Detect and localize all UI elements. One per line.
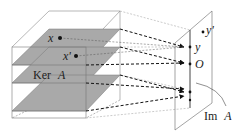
label-y-prime: y' [205, 23, 214, 37]
label-image: Im A [204, 106, 232, 123]
label-origin: O [195, 57, 204, 71]
label-kernel: Ker A [33, 65, 66, 82]
point-x [58, 36, 62, 40]
label-x: x [47, 31, 54, 45]
linear-map-diagram: x x' y y' O Ker A Im A [0, 0, 242, 134]
point-y-prime [202, 31, 205, 34]
point-y [189, 46, 192, 49]
label-y: y [194, 40, 201, 54]
label-x-prime: x' [62, 49, 71, 63]
point-lower [189, 91, 192, 94]
point-x-prime [74, 54, 78, 58]
point-bottom [189, 99, 191, 101]
point-origin [189, 63, 192, 66]
image-label-pointer [196, 83, 226, 106]
